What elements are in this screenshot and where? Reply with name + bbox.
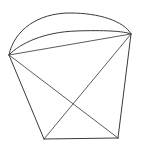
diagonal-right-to-bottom-left-path (44, 34, 131, 139)
right-side-edge-path (118, 34, 131, 138)
rim-chord-path (9, 34, 131, 55)
diagonal-left-to-bottom-right-path (9, 55, 118, 138)
geometric-figure-svg (0, 0, 141, 147)
upper-arc-path (9, 13, 131, 55)
lower-arc-path (9, 31, 131, 55)
bottom-edge-path (44, 138, 118, 139)
left-side-edge-path (9, 55, 44, 139)
